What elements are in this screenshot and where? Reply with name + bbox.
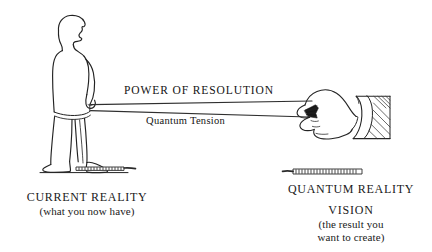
- quantum-reality-hand: [297, 90, 390, 139]
- current-reality-spring-anchor: [76, 167, 136, 170]
- vision-subtext-line1: (the result you: [272, 218, 430, 231]
- current-reality-figure: [40, 15, 128, 172]
- quantum-reality-spring-anchor: [283, 169, 362, 174]
- quantum-tension-label: Quantum Tension: [146, 115, 225, 127]
- vision-caption: VISION (the result you want to create): [272, 203, 430, 244]
- vision-subtext-line2: want to create): [272, 231, 430, 244]
- current-reality-heading: CURRENT REALITY: [6, 190, 168, 205]
- current-reality-caption: CURRENT REALITY (what you now have): [6, 190, 168, 218]
- vision-heading: VISION: [272, 203, 430, 218]
- quantum-reality-caption: QUANTUM REALITY: [272, 182, 430, 197]
- diagram-canvas: POWER OF RESOLUTION Quantum Tension CURR…: [0, 0, 432, 252]
- quantum-reality-heading: QUANTUM REALITY: [272, 182, 430, 197]
- power-of-resolution-label: POWER OF RESOLUTION: [124, 84, 274, 97]
- current-reality-subtext: (what you now have): [6, 205, 168, 218]
